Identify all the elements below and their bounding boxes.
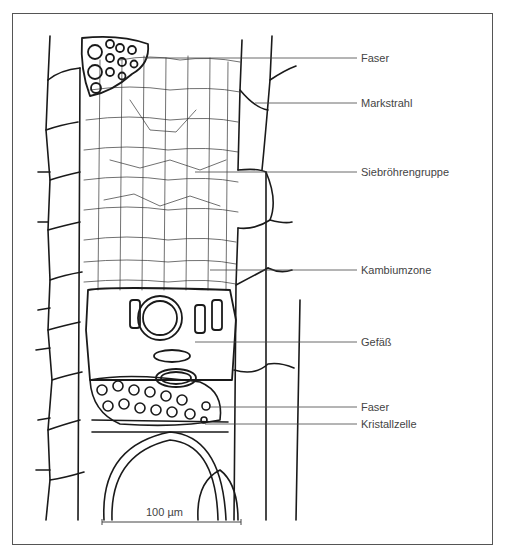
label-faser-top: Faser [361,52,389,64]
label-siebroehrengruppe: Siebröhrengruppe [361,166,449,178]
label-gefaess: Gefäß [361,336,392,348]
label-kambiumzone: Kambiumzone [361,264,431,276]
scale-bar [102,519,241,525]
label-faser-bottom: Faser [361,401,389,413]
large-bottom-vessel [92,420,238,520]
vessel-group [86,288,236,387]
right-ray-cells [234,36,300,520]
tissue-illustration [0,0,519,556]
label-kristallzelle: Kristallzelle [361,418,417,430]
label-markstrahl: Markstrahl [361,97,412,109]
left-ray-cells [36,36,84,520]
scale-bar-label: 100 µm [146,506,183,518]
bottom-fiber-bundle [90,376,221,425]
